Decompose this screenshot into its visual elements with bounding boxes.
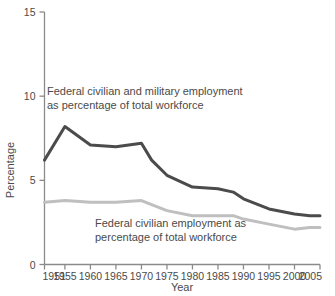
y-tick-label-5: 5 [30,174,36,186]
y-tick-label-0: 0 [30,259,36,271]
x-tick-label-1975: 1975 [155,270,179,282]
x-tick-label-1965: 1965 [104,270,128,282]
chart-container: 051015 195119551960196519701975198019851… [0,0,335,296]
lower-annotation-line-1: Federal civilian employment as [95,217,247,229]
x-tick-label-1995: 1995 [257,270,281,282]
x-tick-label-1985: 1985 [206,270,230,282]
x-tick-label-1960: 1960 [79,270,103,282]
lower-annotation-line-2: percentage of total workforce [95,231,237,243]
x-tick-label-2005: 2005 [299,270,323,282]
x-tick-label-1990: 1990 [232,270,256,282]
y-tick-label-15: 15 [24,6,36,18]
x-tick-label-1980: 1980 [181,270,205,282]
x-axis-tick-labels: 1951195519601965197019751980198519901995… [43,270,323,282]
x-tick-label-1955: 1955 [53,270,77,282]
x-axis-title: Year [171,281,194,293]
y-tick-label-10: 10 [24,90,36,102]
x-tick-label-1970: 1970 [130,270,154,282]
y-axis-title: Percentage [4,142,16,198]
upper-annotation-line-1: Federal civilian and military employment [47,85,243,97]
upper-annotation-line-2: as percentage of total workforce [47,99,204,111]
line-chart: 051015 195119551960196519701975198019851… [0,0,335,296]
